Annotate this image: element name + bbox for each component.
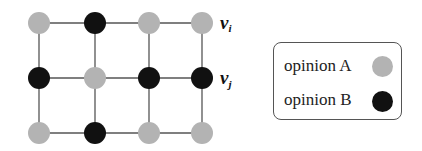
lattice-graph: vivj (0, 0, 260, 151)
opinion-b-dot-icon (372, 91, 393, 112)
legend: opinion A opinion B (273, 42, 402, 120)
node-opinion-b (28, 67, 50, 89)
node-opinion-a (138, 12, 160, 34)
opinion-a-dot-icon (372, 56, 393, 77)
node-opinion-b (84, 122, 106, 144)
node-opinion-a (28, 122, 50, 144)
node-opinion-b (84, 12, 106, 34)
node-opinion-a (191, 12, 213, 34)
node-opinion-a (28, 12, 50, 34)
label-vi: vi (220, 12, 232, 34)
node-opinion-a (138, 122, 160, 144)
node-opinion-b (191, 67, 213, 89)
legend-label: opinion A (284, 56, 352, 75)
node-opinion-b (138, 67, 160, 89)
legend-label: opinion B (284, 90, 352, 109)
legend-item-opinion-b: opinion B (284, 90, 352, 110)
node-opinion-a (84, 67, 106, 89)
legend-item-opinion-a: opinion A (284, 56, 352, 76)
node-opinion-a (191, 122, 213, 144)
label-vj: vj (220, 67, 232, 90)
